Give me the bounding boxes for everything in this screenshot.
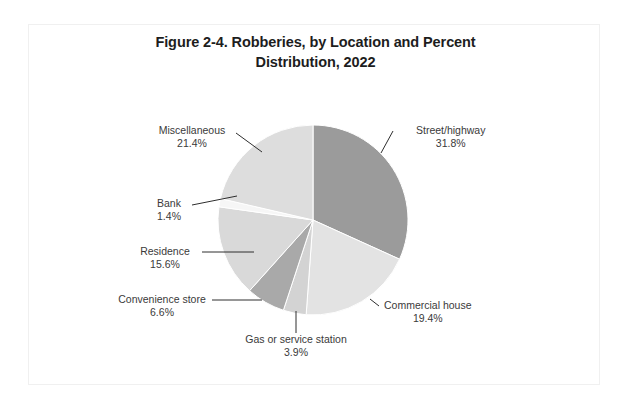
slice-label-bank-name: Bank <box>150 197 188 210</box>
leader-line-street-highway <box>381 131 393 153</box>
slice-label-convenience-store-name: Convenience store <box>114 293 210 306</box>
pie-chart: Street/highway 31.8% Commercial house 19… <box>0 0 631 411</box>
figure-container: Figure 2-4. Robberies, by Location and P… <box>0 0 631 411</box>
slice-label-residence: Residence 15.6% <box>132 245 198 271</box>
slice-label-gas-or-service-station-name: Gas or service station <box>206 333 386 346</box>
pie-slices-group <box>218 125 408 315</box>
slice-label-street-highway-value: 31.8% <box>416 137 485 150</box>
leader-line-commercial-house <box>370 299 379 306</box>
slice-label-street-highway-name: Street/highway <box>416 124 485 137</box>
slice-label-commercial-house-name: Commercial house <box>384 299 472 312</box>
slice-label-convenience-store-value: 6.6% <box>114 306 210 319</box>
slice-label-bank: Bank 1.4% <box>150 197 188 223</box>
slice-label-gas-or-service-station-value: 3.9% <box>206 346 386 359</box>
slice-label-street-highway: Street/highway 31.8% <box>416 124 485 150</box>
slice-label-convenience-store: Convenience store 6.6% <box>114 293 210 319</box>
slice-label-miscellaneous-name: Miscellaneous <box>152 124 232 137</box>
slice-label-bank-value: 1.4% <box>150 210 188 223</box>
slice-label-miscellaneous-value: 21.4% <box>152 137 232 150</box>
slice-label-residence-value: 15.6% <box>132 258 198 271</box>
slice-label-gas-or-service-station: Gas or service station 3.9% <box>206 333 386 359</box>
slice-label-commercial-house-value: 19.4% <box>384 312 472 325</box>
slice-label-residence-name: Residence <box>132 245 198 258</box>
slice-label-miscellaneous: Miscellaneous 21.4% <box>152 124 232 150</box>
slice-label-commercial-house: Commercial house 19.4% <box>384 299 472 325</box>
